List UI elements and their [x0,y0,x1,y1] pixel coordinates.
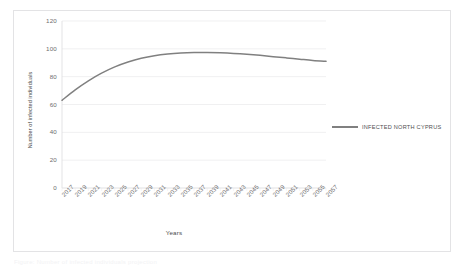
chart-legend[interactable]: INFECTED NORTH CYPRUS [332,124,441,130]
chart-canvas [14,11,452,253]
chart-figure: Number of infected individuals 020406080… [13,10,451,252]
y-tick-label: 40 [29,128,57,135]
gridlines [62,21,326,188]
figure-caption: Figure: Number of infected individuals p… [14,259,314,265]
chart-plot-area[interactable]: Number of infected individuals 020406080… [14,11,450,251]
y-tick-label: 120 [29,17,57,24]
y-tick-label: 20 [29,156,57,163]
legend-swatch-icon [332,126,358,128]
legend-label: INFECTED NORTH CYPRUS [362,124,441,130]
y-tick-label: 0 [29,184,57,191]
y-tick-label: 80 [29,73,57,80]
x-axis-title: Years [14,229,334,236]
y-tick-label: 100 [29,45,57,52]
y-tick-label: 60 [29,101,57,108]
